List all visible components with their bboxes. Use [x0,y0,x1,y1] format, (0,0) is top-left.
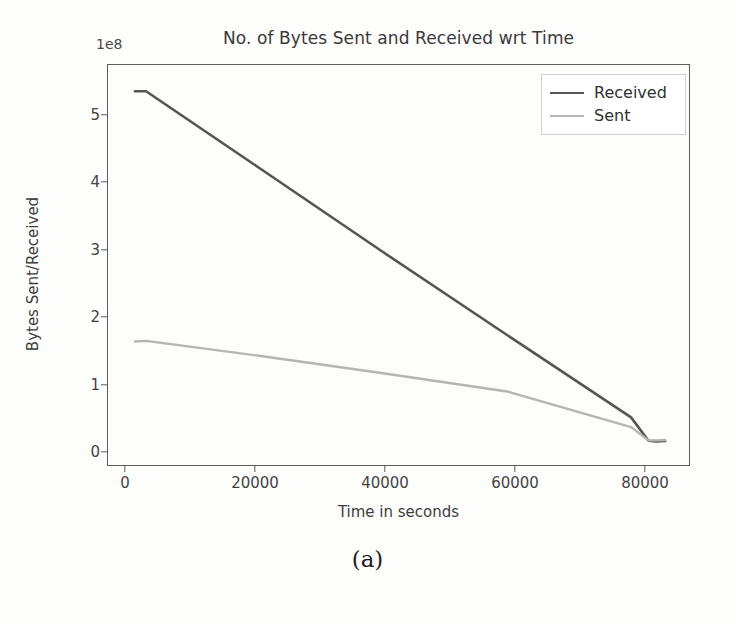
x-tick-label-1: 20000 [231,474,279,492]
x-axis-title: Time in seconds [107,503,690,521]
legend-color-swatch-sent [550,115,584,117]
x-tick-mark-4 [644,466,645,472]
legend-color-swatch-received [550,92,584,94]
x-tick-mark-1 [254,466,255,472]
legend-item-received: Received [550,81,677,104]
figure-panel: No. of Bytes Sent and Received wrt Time … [0,0,735,625]
y-axis-title: Bytes Sent/Received [24,174,42,374]
chart-title: No. of Bytes Sent and Received wrt Time [107,28,690,48]
legend-label-sent: Sent [594,106,630,125]
y-axis-offset-label: 1e8 [96,36,122,52]
line-series-sent [135,341,665,441]
y-tick-label-1: 1 [74,376,100,394]
y-tick-label-4: 4 [74,173,100,191]
x-tick-mark-3 [514,466,515,472]
legend-item-sent: Sent [550,104,677,127]
chart-legend: Received Sent [541,74,686,135]
x-tick-label-4: 80000 [621,474,669,492]
x-tick-mark-2 [384,466,385,472]
x-tick-label-2: 40000 [361,474,409,492]
figure-caption: (a) [0,546,735,572]
legend-label-received: Received [594,83,667,102]
x-tick-label-0: 0 [120,474,130,492]
y-tick-label-5: 5 [74,106,100,124]
line-series-received [135,91,665,441]
y-tick-label-3: 3 [74,241,100,259]
x-tick-mark-0 [124,466,125,472]
y-tick-label-0: 0 [74,443,100,461]
x-tick-label-3: 60000 [491,474,539,492]
y-tick-label-2: 2 [74,308,100,326]
